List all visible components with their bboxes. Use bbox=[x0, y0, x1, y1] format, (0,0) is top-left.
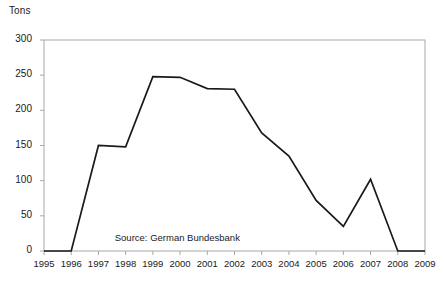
gold-sales-line-chart: Tons 050100150200250300 1995199619971998… bbox=[0, 0, 444, 282]
y-tick-label: 0 bbox=[6, 244, 32, 255]
y-tick-label: 50 bbox=[6, 209, 32, 220]
y-axis-tick-marks bbox=[40, 40, 44, 251]
data-series-line bbox=[44, 77, 425, 251]
y-tick-label: 200 bbox=[6, 103, 32, 114]
y-tick-label: 250 bbox=[6, 68, 32, 79]
y-tick-label: 300 bbox=[6, 33, 32, 44]
x-tick-label: 2003 bbox=[247, 258, 277, 269]
x-tick-label: 2005 bbox=[301, 258, 331, 269]
x-axis-tick-marks bbox=[44, 251, 425, 255]
x-tick-label: 1999 bbox=[138, 258, 168, 269]
x-tick-label: 2007 bbox=[356, 258, 386, 269]
x-tick-label: 1996 bbox=[56, 258, 86, 269]
x-tick-label: 1997 bbox=[83, 258, 113, 269]
x-tick-label: 1998 bbox=[111, 258, 141, 269]
x-tick-label: 2001 bbox=[192, 258, 222, 269]
x-tick-label: 2009 bbox=[410, 258, 440, 269]
y-tick-label: 150 bbox=[6, 139, 32, 150]
y-tick-label: 100 bbox=[6, 174, 32, 185]
source-annotation: Source: German Bundesbank bbox=[115, 232, 240, 243]
x-tick-label: 2002 bbox=[220, 258, 250, 269]
x-tick-label: 2008 bbox=[383, 258, 413, 269]
x-tick-label: 2000 bbox=[165, 258, 195, 269]
x-tick-label: 2006 bbox=[328, 258, 358, 269]
x-tick-label: 2004 bbox=[274, 258, 304, 269]
x-tick-label: 1995 bbox=[29, 258, 59, 269]
